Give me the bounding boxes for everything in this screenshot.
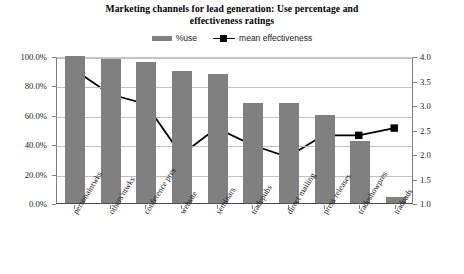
y-axis-right-tickmark bbox=[413, 82, 417, 83]
y-axis-left-tickmark bbox=[52, 204, 56, 205]
y-axis-left-tick-label: 60.0% bbox=[25, 111, 47, 121]
bar bbox=[315, 115, 335, 203]
y-axis-right-tick-label: 4.0 bbox=[420, 52, 431, 62]
y-axis-right-tick-label: 2.0 bbox=[420, 150, 431, 160]
y-axis-right-tickmark bbox=[413, 180, 417, 181]
legend-label-use: %use bbox=[176, 33, 197, 43]
bar bbox=[208, 74, 228, 203]
chart-container: Marketing channels for lead generation: … bbox=[0, 0, 464, 274]
y-axis-right-tickmark bbox=[413, 204, 417, 205]
y-axis-right-tick-label: 2.5 bbox=[420, 126, 431, 136]
bar-swatch-icon bbox=[152, 36, 172, 41]
legend-item-use: %use bbox=[152, 33, 197, 43]
y-axis-right-tickmark bbox=[413, 155, 417, 156]
y-axis-right-tick-label: 1.0 bbox=[420, 199, 431, 209]
y-axis-left-tick-label: 0.0% bbox=[29, 199, 47, 209]
y-axis-right: 1.01.52.02.53.03.54.0 bbox=[413, 57, 464, 204]
line-path bbox=[75, 70, 395, 157]
line-marker bbox=[391, 124, 398, 131]
y-axis-right-tick-label: 3.0 bbox=[420, 101, 431, 111]
y-axis-right-tick-label: 1.5 bbox=[420, 175, 431, 185]
y-axis-right-tick-label: 3.5 bbox=[420, 77, 431, 87]
bar bbox=[243, 103, 263, 203]
y-axis-left-tick-label: 80.0% bbox=[25, 81, 47, 91]
chart-title-line-1: Marketing channels for lead generation: … bbox=[52, 3, 412, 15]
y-axis-left-tick-label: 100.0% bbox=[21, 52, 48, 62]
chart-title-line-2: effectiveness ratings bbox=[52, 15, 412, 27]
legend-item-mean-effectiveness: mean effectiveness bbox=[213, 33, 312, 43]
legend-label-mean-effectiveness: mean effectiveness bbox=[239, 33, 312, 43]
bar bbox=[101, 59, 121, 203]
y-axis-left: 0.0%20.0%40.0%60.0%80.0%100.0% bbox=[0, 57, 52, 204]
y-axis-left-tick-label: 40.0% bbox=[25, 140, 47, 150]
y-axis-right-tickmark bbox=[413, 106, 417, 107]
chart-title: Marketing channels for lead generation: … bbox=[52, 3, 412, 27]
y-axis-right-tickmark bbox=[413, 57, 417, 58]
chart-legend: %use mean effectiveness bbox=[0, 31, 464, 45]
y-axis-left-tick-label: 20.0% bbox=[25, 170, 47, 180]
plot-area bbox=[56, 57, 413, 204]
bar bbox=[172, 71, 192, 203]
bar bbox=[65, 56, 85, 203]
bar bbox=[279, 103, 299, 203]
y-axis-right-tickmark bbox=[413, 131, 417, 132]
line-square-marker-icon bbox=[213, 34, 235, 43]
line-marker bbox=[355, 132, 362, 139]
bar bbox=[136, 62, 156, 203]
